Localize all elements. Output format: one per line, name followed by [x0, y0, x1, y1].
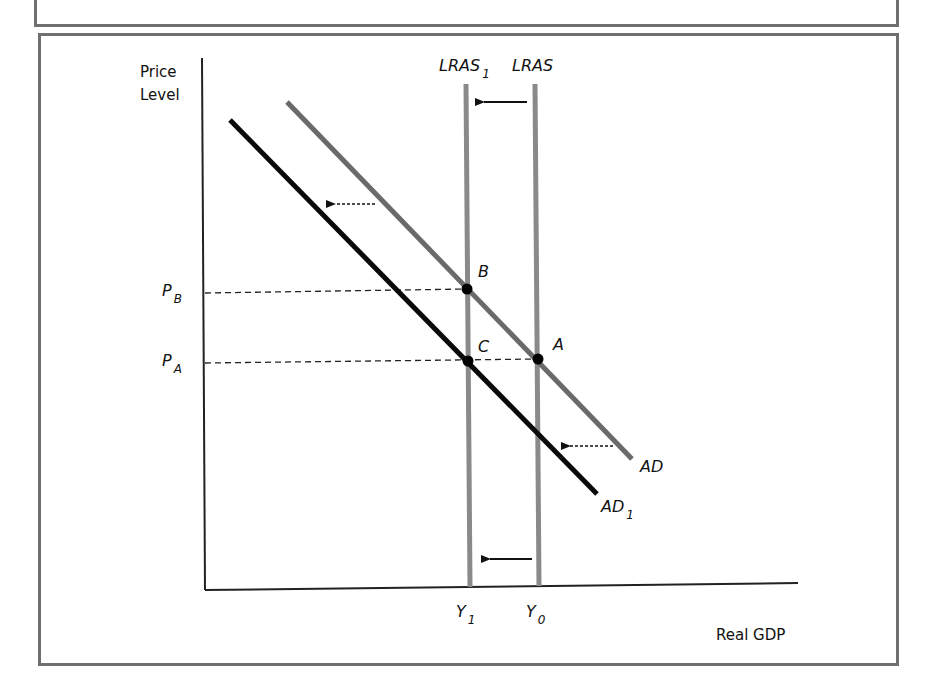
point-b-marker [462, 284, 473, 295]
lras1-label: LRAS1 [439, 56, 490, 81]
point-c-marker [463, 356, 474, 367]
point-b-label: B [478, 262, 489, 281]
lras1-curve [466, 84, 470, 587]
ad-lras-diagram: Price Level Real GDP B C A LRAS1 LRAS AD… [0, 0, 940, 695]
pb-tick-label: PB [162, 281, 182, 306]
point-a-label: A [552, 335, 564, 354]
y1-tick-label: Y1 [456, 602, 475, 627]
x-axis [205, 583, 798, 590]
ad1-label: AD1 [600, 497, 634, 522]
lras-label: LRAS [512, 56, 553, 75]
point-c-label: C [478, 337, 490, 356]
pa-guide-line [205, 359, 538, 363]
shift-arrows [335, 102, 613, 559]
y-axis-label-line1: Price [140, 63, 177, 81]
lras-curve [535, 84, 539, 586]
y0-tick-label: Y0 [526, 602, 546, 627]
y-axis [202, 58, 205, 590]
ad-curve [287, 102, 632, 459]
ad1-curve [230, 120, 597, 494]
x-axis-label: Real GDP [716, 626, 785, 644]
y-axis-label-line2: Level [140, 86, 180, 104]
pb-guide-line [205, 289, 467, 293]
pa-tick-label: PA [162, 351, 182, 376]
ad-label: AD [639, 457, 663, 476]
point-a-marker [533, 354, 544, 365]
